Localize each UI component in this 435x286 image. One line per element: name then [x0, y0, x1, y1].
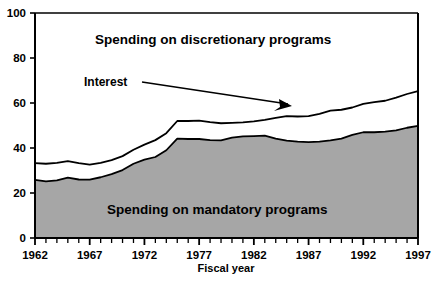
y-tick-labels: 020406080100 [7, 7, 26, 244]
x-axis-title: Fiscal year [198, 262, 256, 274]
chart-figure: 020406080100 196219671972197719821987199… [0, 0, 435, 286]
y-tick-label: 0 [20, 232, 26, 244]
mandatory-band-label: Spending on mandatory programs [107, 202, 328, 217]
discretionary-band-label: Spending on discretionary programs [95, 32, 331, 47]
x-tick-label: 1977 [186, 249, 212, 261]
y-tick-label: 60 [13, 97, 26, 109]
x-tick-label: 1982 [241, 249, 267, 261]
y-tick-label: 100 [7, 7, 26, 19]
y-tick-label: 40 [13, 142, 26, 154]
x-tick-labels: 19621967197219771982198719921997 [22, 249, 431, 261]
x-tick-label: 1987 [296, 249, 322, 261]
y-tick-label: 80 [13, 52, 26, 64]
y-tick-label: 20 [13, 187, 26, 199]
interest-callout-label: Interest [84, 75, 127, 89]
stacked-area-chart: 020406080100 196219671972197719821987199… [0, 0, 435, 286]
x-tick-label: 1997 [405, 249, 431, 261]
x-tick-label: 1962 [22, 249, 48, 261]
x-tick-label: 1972 [132, 249, 158, 261]
x-tick-marks [35, 238, 418, 245]
x-tick-label: 1992 [350, 249, 376, 261]
x-tick-label: 1967 [77, 249, 103, 261]
